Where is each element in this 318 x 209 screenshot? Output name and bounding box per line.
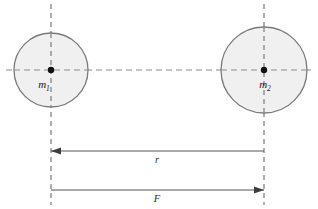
mass-1-center-dot <box>48 67 54 73</box>
mass-2-label-subscript: 2 <box>267 84 271 93</box>
gravity-force-diagram: m1 m2 r F <box>0 0 318 209</box>
physics-diagram-canvas: m1 m2 r F <box>0 0 318 209</box>
force-label: F <box>153 193 161 204</box>
mass-2-label-base: m <box>259 78 267 90</box>
mass-1-label-subscript: 1 <box>46 84 50 93</box>
mass-2-center-dot <box>261 67 267 73</box>
mass-1-label-base: m <box>38 78 46 90</box>
